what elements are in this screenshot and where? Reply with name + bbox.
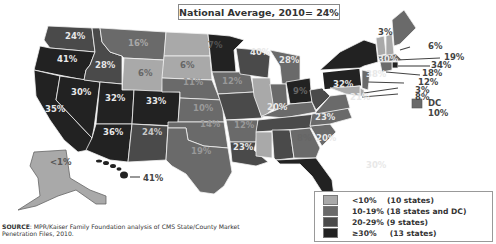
legend-count: (18 states and DC) [384, 207, 467, 216]
legend-range: 10-19% [352, 207, 384, 216]
label-ne-visible: 11% [183, 77, 204, 87]
legend-range: ≥30% [352, 229, 377, 238]
legend: <10% (10 states) 10-19% (18 states and D… [314, 191, 493, 242]
label-ok: 14% [200, 119, 221, 129]
label-la: 23% [233, 142, 254, 152]
label-mt: 16% [128, 38, 149, 48]
legend-item-20to29: 20-29% (9 states) [323, 217, 428, 227]
label-nh: 6% [428, 41, 443, 51]
label-ms: 8% [297, 133, 312, 143]
label-ar: 12% [234, 120, 255, 130]
label-hi: 41% [143, 173, 164, 183]
legend-item-ge30: ≥30% (13 states) [323, 228, 437, 238]
label-sd: 6% [180, 60, 195, 70]
label-il: 9% [293, 86, 308, 96]
state-vt [376, 36, 386, 56]
legend-item-10to19: 10-19% (18 states and DC) [323, 206, 466, 216]
label-ca: 35% [45, 104, 66, 114]
state-nd [164, 32, 210, 56]
source-text: : MPR/Kaiser Family Foundation analysis … [30, 223, 240, 230]
label-dc: 10% [428, 108, 449, 118]
label-dc-name: DC [428, 98, 441, 108]
legend-range: 20-29% [352, 218, 384, 227]
label-wy: 6% [138, 68, 153, 78]
label-vt: 3% [378, 27, 393, 37]
source-text-2: Penetration Files, 2010. [2, 230, 74, 237]
legend-swatch-ge30 [323, 228, 338, 238]
legend-swatch-10to19 [323, 206, 338, 216]
label-id: 28% [95, 60, 116, 70]
legend-count: (10 states) [377, 196, 434, 205]
label-ks-visible: 10% [193, 103, 214, 113]
label-nd: 7% [208, 40, 223, 50]
label-or: 41% [57, 54, 78, 64]
label-mn: 40% [250, 47, 271, 57]
label-az: 36% [103, 127, 124, 137]
label-oh: 32% [333, 79, 354, 89]
state-ms [256, 132, 272, 158]
label-ut: 32% [105, 93, 126, 103]
legend-swatch-20to29 [323, 217, 338, 227]
state-hi [96, 160, 128, 179]
state-nh [386, 34, 394, 56]
state-me [392, 10, 416, 46]
label-fl: 30% [366, 160, 387, 170]
source-label: SOURCE [2, 223, 30, 230]
label-tx: 19% [191, 146, 212, 156]
label-nm: 24% [142, 127, 163, 137]
label-co: 33% [146, 96, 167, 106]
label-mo: 20% [267, 102, 288, 112]
legend-swatch-lt10 [323, 195, 338, 205]
source-note: SOURCE: MPR/Kaiser Family Foundation ana… [2, 223, 302, 238]
legend-count: (13 states) [377, 229, 437, 238]
label-ak: <1% [50, 157, 72, 167]
state-ny [320, 40, 378, 70]
legend-range: <10% [352, 196, 377, 205]
label-wv: 21% [350, 92, 371, 102]
label-nv: 30% [71, 87, 92, 97]
label-pa: 38% [366, 69, 387, 79]
legend-item-lt10: <10% (10 states) [323, 195, 434, 205]
label-al: 20% [316, 133, 337, 143]
label-wa: 24% [65, 31, 86, 41]
label-wi: 28% [279, 55, 300, 65]
label-ny: 30% [378, 54, 399, 64]
legend-count: (9 states) [384, 218, 428, 227]
label-ia: 12% [222, 76, 243, 86]
label-tn: 23% [315, 112, 336, 122]
